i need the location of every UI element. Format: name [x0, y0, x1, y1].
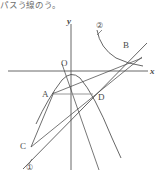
- parabola-curve: [36, 74, 121, 158]
- point-label-O: O: [61, 58, 68, 68]
- callout-label-1: ①: [26, 163, 33, 172]
- point-label-C: C: [20, 141, 26, 151]
- math-figure: x y O A B C D ② ①: [0, 0, 162, 178]
- x-axis-label: x: [149, 66, 155, 76]
- point-label-B: B: [123, 40, 129, 50]
- line-1: [23, 43, 147, 169]
- point-label-D: D: [98, 92, 105, 102]
- callout-label-2: ②: [96, 21, 103, 30]
- point-label-A: A: [42, 89, 49, 99]
- chord-C-A: [31, 92, 54, 147]
